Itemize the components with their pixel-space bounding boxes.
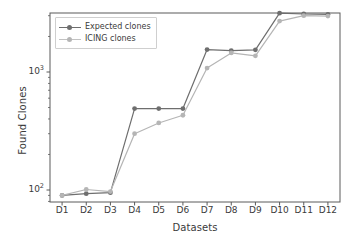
data-point [253, 47, 258, 52]
legend-swatch-expected-icon [59, 22, 81, 32]
legend-item-expected: Expected clones [59, 21, 151, 33]
chart-figure: Found Clones Datasets 102103 D1D2D3D4D5D… [0, 0, 355, 241]
chart-legend: Expected clones ICING clones [55, 17, 157, 49]
data-point [108, 189, 113, 194]
data-point [132, 106, 137, 111]
data-point [301, 13, 306, 18]
data-point [326, 14, 331, 19]
data-point [156, 106, 161, 111]
plot-area [0, 0, 355, 241]
data-point [60, 193, 65, 198]
data-point [277, 19, 282, 24]
data-point [253, 53, 258, 58]
data-point [84, 187, 89, 192]
data-point [205, 66, 210, 71]
data-point [181, 113, 186, 118]
data-point [132, 131, 137, 136]
legend-label-expected: Expected clones [85, 22, 151, 32]
data-point [229, 51, 234, 56]
data-point [205, 47, 210, 52]
legend-label-icing: ICING clones [85, 34, 136, 44]
data-point [277, 11, 282, 16]
legend-item-icing: ICING clones [59, 33, 151, 45]
data-point [156, 121, 161, 126]
legend-swatch-icing-icon [59, 34, 81, 44]
data-point [84, 191, 89, 196]
data-point [181, 106, 186, 111]
